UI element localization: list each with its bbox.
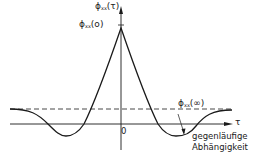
asymptote-label: ϕxx(∞) (178, 99, 204, 108)
annotation-arrow-icon (182, 129, 186, 136)
x-axis-label: τ (235, 118, 240, 127)
x-axis-arrow-icon (224, 122, 233, 126)
origin-label: 0 (121, 127, 126, 136)
annotation-line-2: Abhängigkeit (192, 143, 248, 152)
y-axis-label: ϕxx(τ) (95, 2, 119, 11)
y-axis-arrow-icon (119, 6, 123, 14)
annotation-line-1: gegenläufige (192, 132, 248, 141)
peak-label: ϕxx(o) (79, 20, 103, 29)
autocorrelation-diagram: ϕxx(τ) ϕxx(o) ϕxx(∞) τ 0 gegenläufige Ab… (0, 0, 256, 159)
